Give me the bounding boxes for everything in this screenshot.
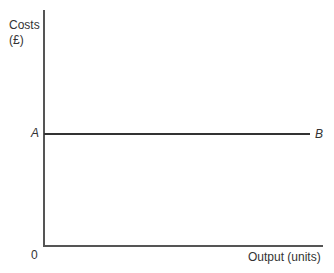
point-b-label: B [315,127,323,141]
x-axis [43,245,323,247]
y-axis-label-line1: Costs [9,18,40,33]
point-a-label: A [31,126,39,140]
y-axis [43,10,45,246]
origin-label: 0 [31,248,38,262]
x-axis-label: Output (units) [248,250,321,264]
cost-line-ab [44,133,310,135]
y-axis-label: Costs (£) [9,18,40,48]
y-axis-label-line2: (£) [9,33,40,48]
